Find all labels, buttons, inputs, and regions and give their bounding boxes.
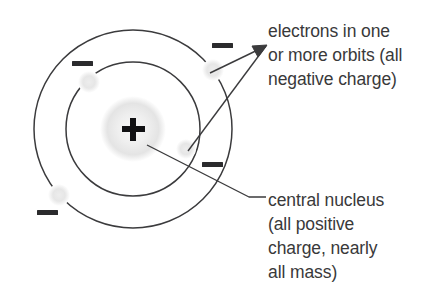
- electron-minus-right: [202, 162, 223, 167]
- electrons-leader-arrowhead: [252, 45, 267, 57]
- electron-minus-top-right: [212, 43, 233, 48]
- electrons-leader-lower: [188, 46, 266, 151]
- atom-diagram: electrons in one or more orbits (all neg…: [0, 0, 447, 302]
- electron-minus-bottom-left: [37, 210, 58, 215]
- electron-dot-top-left: [78, 71, 100, 93]
- label-nucleus: central nucleus (all positive charge, ne…: [268, 188, 444, 284]
- electron-minus-top-left: [72, 61, 93, 66]
- label-electrons: electrons in one or more orbits (all neg…: [268, 19, 444, 91]
- electron-dot-bottom-left: [48, 184, 70, 206]
- nucleus-leader-line: [147, 145, 266, 197]
- electron-dot-right: [176, 139, 196, 159]
- electron-dot-top-right: [202, 59, 224, 81]
